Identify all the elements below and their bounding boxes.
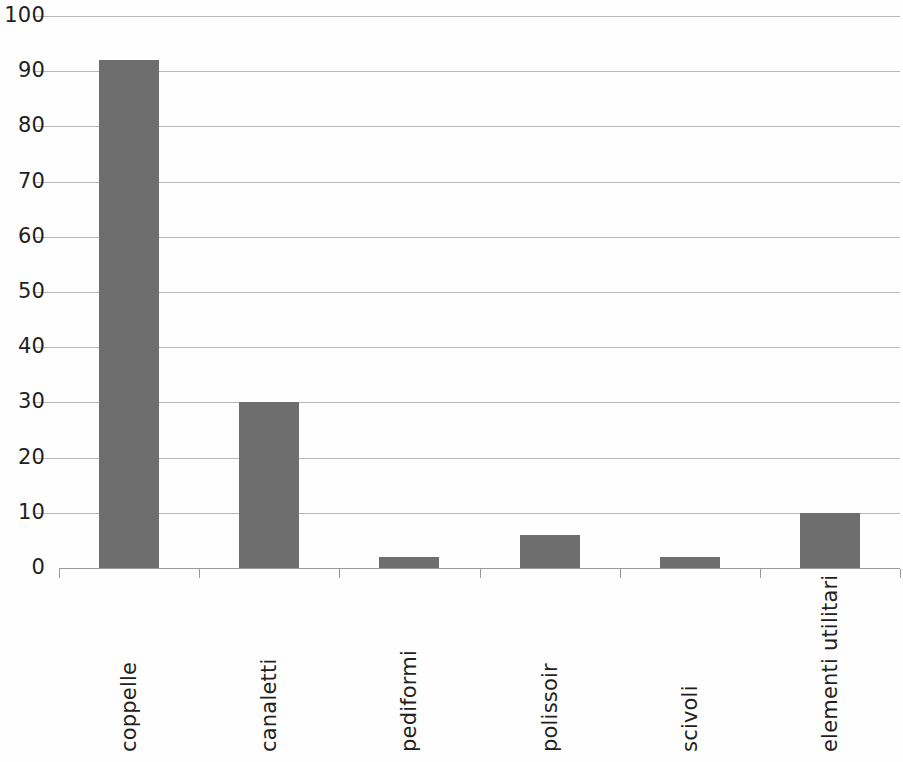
bar-canaletti[interactable] (239, 402, 299, 568)
gridline-50 (33, 292, 900, 293)
x-tick-3 (480, 569, 481, 578)
bar-coppelle[interactable] (99, 60, 159, 568)
y-tick-label-20: 20 (0, 447, 45, 468)
x-category-label-canaletti: canaletti (259, 659, 280, 752)
gridline-80 (33, 126, 900, 127)
x-tick-6 (900, 569, 901, 578)
gridline-100 (33, 16, 900, 17)
bar-pediformi[interactable] (379, 557, 439, 568)
bar-polissoir[interactable] (520, 535, 580, 568)
y-tick-label-80: 80 (0, 115, 45, 136)
x-tick-0 (59, 569, 60, 578)
bar-chart: 0102030405060708090100 coppellecanaletti… (0, 0, 903, 762)
gridline-40 (33, 347, 900, 348)
x-category-label-polissoir: polissoir (540, 663, 561, 752)
x-tick-5 (760, 569, 761, 578)
x-category-label-elementi-utilitari: elementi utilitari (820, 575, 841, 752)
gridline-60 (33, 237, 900, 238)
gridline-20 (33, 458, 900, 459)
y-tick-label-60: 60 (0, 226, 45, 247)
y-tick-label-30: 30 (0, 391, 45, 412)
y-tick-label-90: 90 (0, 60, 45, 81)
x-tick-1 (199, 569, 200, 578)
gridline-70 (33, 182, 900, 183)
y-tick-label-70: 70 (0, 171, 45, 192)
y-tick-label-0: 0 (0, 557, 45, 578)
y-tick-label-50: 50 (0, 281, 45, 302)
gridline-30 (33, 402, 900, 403)
y-tick-label-10: 10 (0, 502, 45, 523)
x-tick-4 (620, 569, 621, 578)
gridline-10 (33, 513, 900, 514)
x-category-label-scivoli: scivoli (680, 685, 701, 752)
y-tick-label-40: 40 (0, 336, 45, 357)
bar-elementi-utilitari[interactable] (800, 513, 860, 568)
y-tick-label-100: 100 (0, 5, 45, 26)
x-category-label-pediformi: pediformi (399, 650, 420, 752)
plot-area: 0102030405060708090100 (0, 0, 903, 590)
gridline-90 (33, 71, 900, 72)
x-category-label-coppelle: coppelle (119, 662, 140, 752)
bar-scivoli[interactable] (660, 557, 720, 568)
x-tick-2 (339, 569, 340, 578)
